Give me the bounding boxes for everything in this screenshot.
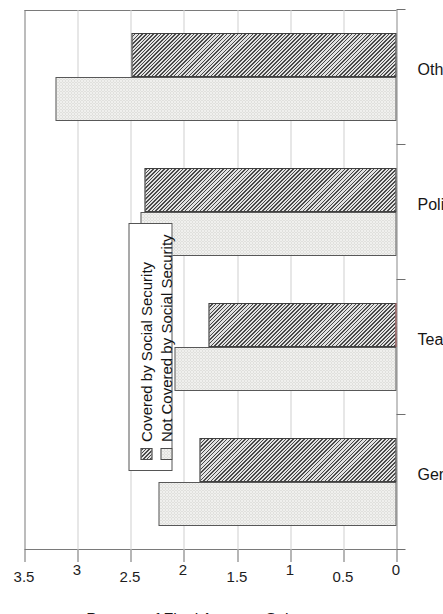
value-tick-label-text: 2	[179, 563, 187, 578]
category-label-general: General	[417, 467, 443, 485]
value-tick-label-text: 0	[391, 563, 399, 578]
value-tick-label: 3.5	[16, 566, 31, 614]
value-tick	[396, 550, 397, 562]
value-tick-label: 0	[388, 566, 403, 614]
category-label-teachers-school: Teachers/School	[417, 332, 443, 350]
category-label-other: Other	[417, 62, 443, 80]
bar-covered-general	[199, 439, 396, 483]
value-tick	[77, 550, 78, 562]
value-tick-label: 2	[175, 566, 190, 614]
value-tick-label-text: 0.5	[332, 569, 353, 584]
value-tick	[290, 550, 291, 562]
value-tick	[343, 550, 344, 562]
value-tick	[237, 550, 238, 562]
value-tick-label: 3	[69, 566, 84, 614]
bar-not-covered-general	[158, 483, 396, 527]
legend-swatch-not-covered	[160, 448, 172, 460]
category-tick	[396, 414, 405, 415]
value-tick-label-text: 3	[72, 563, 80, 578]
bar-not-covered-other	[55, 78, 396, 122]
rotated-chart-canvas: 00.511.522.533.5 Percent of Final Averag…	[0, 0, 443, 614]
bar-covered-teachers-school	[208, 304, 396, 348]
value-tick	[130, 550, 131, 562]
legend-swatch-covered	[140, 448, 152, 460]
value-tick-label: 1	[282, 566, 297, 614]
bar-not-covered-police-fire	[140, 213, 396, 257]
legend-label: Covered by Social Security	[138, 262, 153, 442]
chart-page: 00.511.522.533.5 Percent of Final Averag…	[0, 0, 443, 614]
legend[interactable]: Covered by Social SecurityNot Covered by…	[128, 223, 172, 471]
bar-not-covered-teachers-school	[174, 348, 396, 392]
legend-label: Not Covered by Social Security	[158, 234, 173, 442]
value-tick-label: 0.5	[335, 566, 350, 614]
category-tick	[396, 279, 405, 280]
value-tick-label-text: 1.5	[226, 569, 247, 584]
category-tick	[396, 9, 405, 10]
value-tick-label-text: 1	[285, 563, 293, 578]
category-tick	[396, 144, 405, 145]
value-tick-label: 2.5	[122, 566, 137, 614]
category-label-police-fire: Police/Fire	[417, 197, 443, 215]
legend-item[interactable]: Not Covered by Social Security	[158, 234, 173, 460]
value-tick-label-text: 3.5	[13, 569, 34, 584]
legend-item[interactable]: Covered by Social Security	[138, 262, 153, 460]
value-tick	[183, 550, 184, 562]
bar-covered-other	[131, 34, 396, 78]
value-tick-label: 1.5	[229, 566, 244, 614]
axis-artifact-line	[395, 304, 396, 348]
category-tick	[396, 549, 405, 550]
bar-chart: 00.511.522.533.5 Percent of Final Averag…	[0, 0, 443, 614]
value-tick	[24, 550, 25, 562]
bar-covered-police-fire	[144, 169, 396, 213]
value-tick-label-text: 2.5	[119, 569, 140, 584]
